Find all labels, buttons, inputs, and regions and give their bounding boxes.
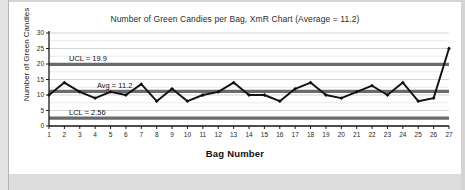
svg-text:20: 20 <box>37 60 45 67</box>
x-axis-tick-labels: 1234567891011121314151617181920212223242… <box>47 126 453 138</box>
svg-text:12: 12 <box>215 131 223 138</box>
y-axis-tick-labels: 051015202530 <box>37 29 49 129</box>
svg-text:0: 0 <box>40 122 44 129</box>
svg-text:17: 17 <box>292 131 300 138</box>
svg-text:16: 16 <box>276 131 284 138</box>
svg-text:26: 26 <box>430 131 438 138</box>
svg-text:3: 3 <box>78 131 82 138</box>
axes <box>49 31 449 126</box>
svg-text:5: 5 <box>109 131 113 138</box>
svg-text:21: 21 <box>353 131 361 138</box>
svg-text:19: 19 <box>322 131 330 138</box>
xmr-chart: Number of Green Candies per Bag, XmR Cha… <box>9 2 461 174</box>
svg-text:23: 23 <box>384 131 392 138</box>
document-bottom-edge <box>9 174 461 190</box>
svg-text:15: 15 <box>37 76 45 83</box>
svg-text:Avg = 11.2: Avg = 11.2 <box>97 81 132 90</box>
svg-text:10: 10 <box>184 131 192 138</box>
svg-text:1: 1 <box>47 131 51 138</box>
svg-text:13: 13 <box>230 131 238 138</box>
svg-text:UCL = 19.9: UCL = 19.9 <box>69 54 107 63</box>
svg-text:6: 6 <box>124 131 128 138</box>
svg-text:8: 8 <box>155 131 159 138</box>
svg-text:7: 7 <box>139 131 143 138</box>
svg-text:25: 25 <box>415 131 423 138</box>
svg-text:27: 27 <box>445 131 453 138</box>
svg-text:10: 10 <box>37 91 45 98</box>
svg-text:24: 24 <box>399 131 407 138</box>
svg-text:15: 15 <box>261 131 269 138</box>
svg-text:5: 5 <box>40 107 44 114</box>
svg-text:11: 11 <box>199 131 206 138</box>
svg-text:22: 22 <box>368 131 376 138</box>
svg-text:30: 30 <box>37 29 45 36</box>
x-axis-title: Bag Number <box>9 148 461 159</box>
control-limit-lines <box>49 64 449 118</box>
svg-text:4: 4 <box>93 131 97 138</box>
document-background: Number of Green Candies per Bag, XmR Cha… <box>0 0 465 190</box>
svg-text:20: 20 <box>338 131 346 138</box>
svg-text:14: 14 <box>245 131 253 138</box>
svg-text:25: 25 <box>37 45 45 52</box>
svg-text:18: 18 <box>307 131 315 138</box>
gridlines <box>49 33 449 126</box>
svg-text:LCL = 2.56: LCL = 2.56 <box>69 108 106 117</box>
svg-text:9: 9 <box>170 131 174 138</box>
document-left-rail <box>0 0 9 190</box>
svg-text:2: 2 <box>63 131 67 138</box>
